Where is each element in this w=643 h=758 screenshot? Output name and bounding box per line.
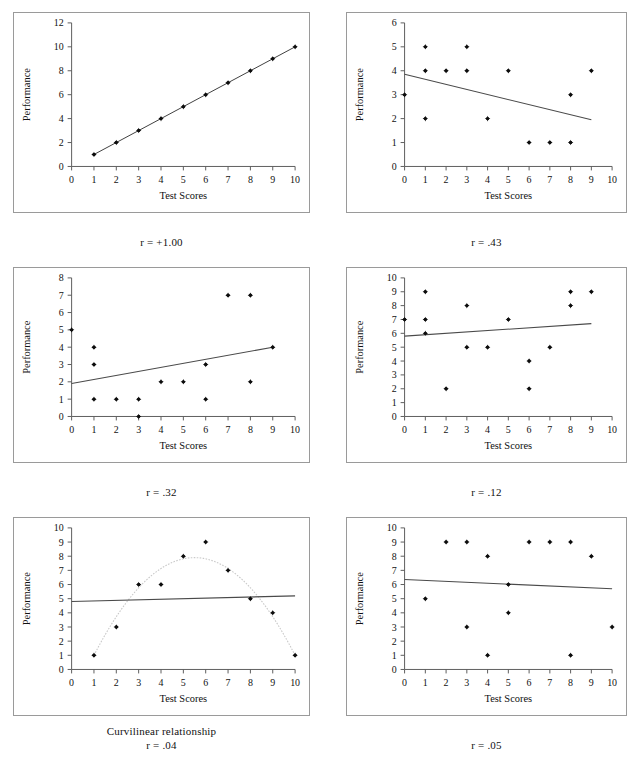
data-point-marker bbox=[443, 68, 449, 74]
x-tick-label: 10 bbox=[607, 677, 617, 688]
data-point-marker bbox=[248, 68, 254, 74]
x-tick-label: 9 bbox=[270, 174, 275, 185]
data-point-marker bbox=[203, 539, 209, 545]
data-point-marker bbox=[423, 116, 429, 122]
x-tick-label: 5 bbox=[506, 677, 511, 688]
chart-caption-sub-5: Curvilinear relationship bbox=[13, 724, 310, 738]
y-tick-label: 8 bbox=[59, 272, 64, 283]
x-tick-label: 5 bbox=[181, 174, 186, 185]
data-point-marker bbox=[203, 362, 209, 368]
x-tick-label: 5 bbox=[181, 677, 186, 688]
y-tick-label: 4 bbox=[392, 356, 397, 367]
y-tick-label: 0 bbox=[392, 664, 397, 675]
regression-line bbox=[405, 74, 592, 119]
chart-panel-3: 012345678012345678910Test ScoresPerforma… bbox=[13, 267, 310, 463]
data-point-marker bbox=[589, 289, 595, 295]
x-tick-label: 3 bbox=[136, 677, 141, 688]
x-tick-label: 5 bbox=[506, 424, 511, 435]
data-point-marker bbox=[464, 344, 470, 350]
x-tick-label: 6 bbox=[527, 424, 532, 435]
x-tick-label: 6 bbox=[203, 174, 208, 185]
y-tick-label: 8 bbox=[59, 551, 64, 562]
data-point-marker bbox=[203, 92, 209, 98]
y-tick-label: 1 bbox=[59, 394, 64, 405]
x-tick-label: 8 bbox=[248, 424, 253, 435]
x-tick-label: 4 bbox=[159, 677, 164, 688]
y-axis-title: Performance bbox=[21, 320, 32, 373]
x-axis-title: Test Scores bbox=[485, 440, 533, 451]
x-tick-label: 5 bbox=[181, 424, 186, 435]
y-tick-label: 7 bbox=[59, 565, 64, 576]
data-point-marker bbox=[91, 344, 97, 350]
chart-caption-main-4: r = .12 bbox=[471, 486, 502, 498]
y-tick-label: 3 bbox=[392, 622, 397, 633]
x-tick-label: 3 bbox=[464, 677, 469, 688]
data-point-marker bbox=[464, 539, 470, 545]
data-point-marker bbox=[158, 116, 164, 122]
data-point-marker bbox=[158, 379, 164, 385]
y-tick-label: 1 bbox=[392, 137, 397, 148]
y-tick-label: 5 bbox=[59, 324, 64, 335]
data-point-marker bbox=[114, 396, 120, 402]
y-tick-label: 1 bbox=[59, 650, 64, 661]
y-tick-label: 2 bbox=[392, 636, 397, 647]
y-tick-label: 6 bbox=[392, 17, 397, 28]
data-point-marker bbox=[69, 327, 75, 333]
chart-svg-3: 012345678012345678910Test ScoresPerforma… bbox=[14, 268, 309, 462]
x-tick-label: 5 bbox=[506, 174, 511, 185]
chart-panel-6: 012345678910012345678910Test ScoresPerfo… bbox=[346, 517, 627, 716]
x-tick-label: 8 bbox=[248, 677, 253, 688]
y-tick-label: 10 bbox=[387, 522, 397, 533]
chart-panel-1: 024681012012345678910Test ScoresPerforma… bbox=[13, 12, 310, 213]
x-tick-label: 2 bbox=[444, 424, 449, 435]
data-point-marker bbox=[225, 292, 231, 298]
chart-panel-2: 0123456012345678910Test ScoresPerformanc… bbox=[346, 12, 627, 213]
x-tick-label: 7 bbox=[547, 174, 552, 185]
chart-caption-6: r = .05 bbox=[346, 738, 627, 752]
x-tick-label: 1 bbox=[91, 677, 96, 688]
data-point-marker bbox=[547, 539, 553, 545]
x-tick-label: 4 bbox=[159, 424, 164, 435]
chart-caption-main-3: r = .32 bbox=[146, 486, 177, 498]
y-tick-label: 6 bbox=[392, 328, 397, 339]
data-point-marker bbox=[225, 568, 231, 574]
data-point-marker bbox=[423, 68, 429, 74]
y-tick-label: 3 bbox=[59, 622, 64, 633]
y-tick-label: 8 bbox=[392, 300, 397, 311]
data-point-marker bbox=[568, 303, 574, 309]
y-tick-label: 7 bbox=[392, 314, 397, 325]
x-tick-label: 3 bbox=[136, 424, 141, 435]
x-tick-label: 7 bbox=[226, 424, 231, 435]
y-tick-label: 8 bbox=[59, 65, 64, 76]
chart-caption-1: r = +1.00 bbox=[13, 235, 310, 249]
x-tick-label: 9 bbox=[589, 174, 594, 185]
data-point-marker bbox=[506, 582, 512, 588]
chart-svg-1: 024681012012345678910Test ScoresPerforma… bbox=[14, 13, 309, 212]
y-tick-label: 2 bbox=[392, 113, 397, 124]
x-tick-label: 9 bbox=[589, 677, 594, 688]
x-tick-label: 1 bbox=[423, 677, 428, 688]
y-tick-label: 5 bbox=[59, 593, 64, 604]
scatterplot-grid: 024681012012345678910Test ScoresPerforma… bbox=[0, 0, 643, 758]
data-point-marker bbox=[91, 396, 97, 402]
x-tick-label: 2 bbox=[444, 174, 449, 185]
y-tick-label: 4 bbox=[392, 607, 397, 618]
chart-caption-3: r = .32 bbox=[13, 485, 310, 499]
data-point-marker bbox=[485, 344, 491, 350]
data-point-marker bbox=[464, 68, 470, 74]
y-tick-label: 2 bbox=[392, 383, 397, 394]
x-tick-label: 3 bbox=[136, 174, 141, 185]
x-tick-label: 0 bbox=[69, 677, 74, 688]
data-point-marker bbox=[158, 582, 164, 588]
regression-line bbox=[72, 596, 295, 602]
data-point-marker bbox=[443, 386, 449, 392]
y-tick-label: 6 bbox=[59, 89, 64, 100]
chart-svg-5: 012345678910012345678910Test ScoresPerfo… bbox=[14, 518, 309, 715]
x-tick-label: 9 bbox=[270, 424, 275, 435]
x-tick-label: 0 bbox=[402, 424, 407, 435]
y-tick-label: 3 bbox=[59, 359, 64, 370]
data-point-marker bbox=[526, 386, 532, 392]
y-tick-label: 2 bbox=[59, 137, 64, 148]
y-tick-label: 10 bbox=[54, 522, 64, 533]
chart-caption-main-1: r = +1.00 bbox=[140, 236, 183, 248]
